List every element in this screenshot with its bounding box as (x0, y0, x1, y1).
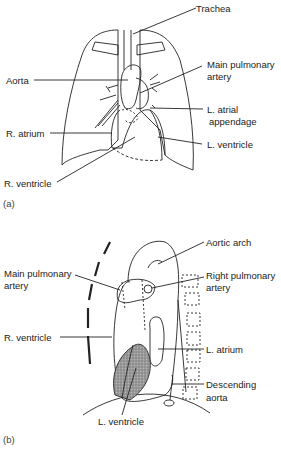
label-aorta: Aorta (6, 75, 29, 86)
label-main-pulmonary-artery: Main pulmonary (207, 59, 275, 70)
label-right-pulmonary-artery: Right pulmonary (206, 270, 275, 281)
label-main-pulmonary-artery-2: artery (207, 71, 231, 82)
label-right-pulmonary-artery-2: artery (206, 282, 230, 293)
figure-a-drawing (34, 8, 203, 182)
label-aortic-arch: Aortic arch (206, 237, 251, 248)
label-l-ventricle: L. ventricle (207, 139, 253, 150)
label-l-atrial-appendage-2: appendage (209, 116, 257, 127)
label-trachea: Trachea (196, 3, 231, 14)
label-descending-aorta: Descending (206, 379, 256, 390)
label-descending-aorta-2: aorta (206, 392, 228, 403)
label-l-atrial-appendage: L. atrial (207, 104, 238, 115)
panel-label-b: (b) (3, 434, 15, 445)
label-l-ventricle-b: L. ventricle (98, 416, 144, 427)
label-main-pulmonary-artery-b: Main pulmonary (4, 268, 72, 279)
label-r-atrium: R. atrium (6, 128, 45, 139)
label-r-ventricle: R. ventricle (4, 178, 52, 189)
label-r-ventricle-b: R. ventricle (4, 332, 52, 343)
figure-b-drawing (60, 241, 210, 415)
label-l-atrium: L. atrium (206, 344, 243, 355)
panel-label-a: (a) (3, 198, 15, 209)
label-main-pulmonary-artery-b-2: artery (4, 280, 28, 291)
